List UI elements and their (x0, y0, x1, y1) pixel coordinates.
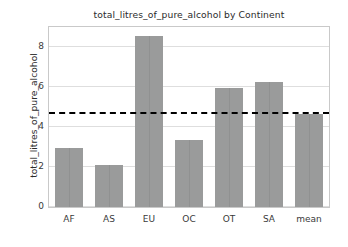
x-tick-label-AF: AF (63, 214, 74, 224)
bar-slot: OT (209, 27, 249, 207)
bar-slot: OC (169, 27, 209, 207)
chart-title: total_litres_of_pure_alcohol by Continen… (48, 9, 330, 20)
mean-reference-line (49, 112, 329, 114)
bar-slot: AS (89, 27, 129, 207)
y-tick-label: 2 (38, 161, 44, 171)
bar-OC[interactable] (175, 140, 204, 207)
bar-mean[interactable] (295, 114, 324, 207)
x-tick-label-EU: EU (143, 214, 155, 224)
x-tick-label-mean: mean (296, 214, 322, 224)
y-axis-label: total_litres_of_pure_alcohol (28, 21, 39, 211)
chart-figure: total_litres_of_pure_alcohol by Continen… (0, 0, 348, 247)
x-tick-label-OC: OC (182, 214, 195, 224)
y-tick-label: 6 (38, 81, 44, 91)
bar-slot: SA (249, 27, 289, 207)
x-tick-label-AS: AS (103, 214, 115, 224)
bar-series: AFASEUOCOTSAmean (49, 27, 329, 207)
y-tick-label: 4 (38, 121, 44, 131)
bar-OT[interactable] (215, 88, 244, 207)
bar-slot: EU (129, 27, 169, 207)
bar-EU[interactable] (135, 36, 164, 207)
bar-slot: AF (49, 27, 89, 207)
bar-slot: mean (289, 27, 329, 207)
bar-AS[interactable] (95, 165, 124, 207)
bar-AF[interactable] (55, 148, 84, 207)
y-tick-label: 8 (38, 41, 44, 51)
bar-SA[interactable] (255, 82, 284, 207)
y-tick-label: 0 (38, 201, 44, 211)
x-tick-label-SA: SA (263, 214, 275, 224)
x-tick-label-OT: OT (223, 214, 236, 224)
plot-area: 02468 AFASEUOCOTSAmean (48, 26, 330, 208)
